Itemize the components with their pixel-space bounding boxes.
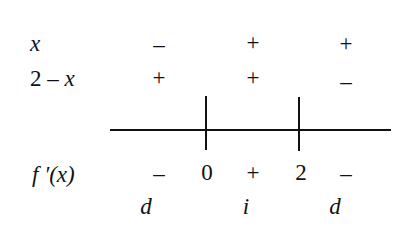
behavior-decreasing-2: d <box>329 195 341 218</box>
sign-x-interval-1: – <box>153 33 165 56</box>
tick-at-zero <box>205 96 207 150</box>
sign-2-minus-x-interval-1: + <box>153 66 166 89</box>
critical-point-zero: 0 <box>201 161 213 184</box>
derivative-sign-interval-2: + <box>247 161 260 184</box>
behavior-decreasing-1: d <box>140 195 152 218</box>
behavior-increasing: i <box>243 195 249 218</box>
row-label-2-minus-x: 2 – x <box>30 67 75 90</box>
derivative-sign-interval-1: – <box>153 162 165 185</box>
derivative-sign-interval-3: – <box>340 162 352 185</box>
row-label-f-prime-x: f ′(x) <box>32 163 75 186</box>
tick-at-two <box>298 97 300 151</box>
sign-2-minus-x-interval-2: + <box>247 66 260 89</box>
row-label-2-minus-x-prefix: 2 – <box>30 66 65 91</box>
row-label-x: x <box>30 32 40 55</box>
row-label-2-minus-x-var: x <box>65 66 75 91</box>
sign-x-interval-3: + <box>340 32 353 55</box>
sign-2-minus-x-interval-3: – <box>340 70 352 93</box>
critical-point-two: 2 <box>295 161 307 184</box>
number-line <box>110 129 391 131</box>
sign-x-interval-2: + <box>247 31 260 54</box>
